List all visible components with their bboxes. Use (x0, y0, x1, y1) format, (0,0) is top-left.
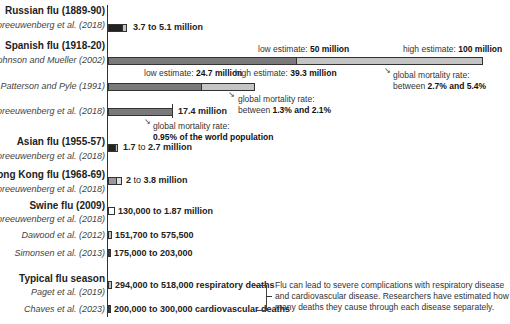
source-label: Paget et al. (2019) (31, 287, 105, 297)
bar-swine-simonsen (108, 249, 111, 257)
bar-low-segment (109, 178, 116, 184)
high-estimate-value: 100 million (458, 44, 502, 54)
bar-swine-dawood (108, 231, 112, 239)
mortality-note: global mortality rate: (238, 94, 315, 104)
group-label-russian-flu: Russian flu (1889-90) (5, 5, 105, 16)
source-label: Dawood et al. (2012) (21, 230, 105, 240)
source-label: Spreeuwenberg et al. (2018) (0, 151, 105, 161)
mortality-note: global mortality rate: (393, 70, 470, 80)
bar-low-segment (109, 109, 172, 115)
bar-high-segment (109, 232, 111, 238)
group-label-spanish-flu: Spanish flu (1918-20) (5, 40, 105, 51)
arrow-icon: ↘ (228, 90, 235, 99)
bar-typical-chaves (108, 305, 111, 313)
high-estimate-label: high estimate: (403, 44, 456, 54)
bar-high-segment (115, 145, 117, 151)
low-estimate-annotation: low estimate: 50 million (258, 44, 349, 54)
source-label: Chaves et al. (2023) (24, 304, 105, 314)
high-estimate-value: 39.3 million (290, 68, 336, 78)
bar-low-segment (109, 58, 296, 64)
mortality-note: global mortality rate: (153, 121, 230, 131)
bar-russian-spreeuwenberg (108, 24, 127, 32)
note-value: 2.7% and 5.4% (428, 81, 487, 91)
value-label: 3.7 to 5.1 million (133, 22, 203, 32)
arrow-icon: ↘ (384, 66, 391, 75)
bar-high-segment (122, 25, 126, 31)
value-low: 1.7 (123, 142, 136, 152)
group-label-swine-flu: Swine flu (2009) (29, 200, 105, 211)
mortality-note-range: between 2.7% and 5.4% (393, 81, 486, 91)
mortality-note-range: between 1.3% and 2.1% (238, 105, 331, 115)
value-low: 2 (126, 175, 131, 185)
source-label: Spreeuwenberg et al. (2018) (0, 184, 105, 194)
arrow-icon: ↘ (144, 117, 151, 126)
mortality-note-value: 0.95% of the world population (153, 132, 273, 142)
value-label: 17.4 million (178, 106, 227, 116)
source-label: Johnson and Mueller (2002) (0, 55, 105, 65)
high-estimate-annotation: high estimate: 100 million (403, 44, 502, 54)
y-axis-line (107, 5, 108, 317)
source-label: Patterson and Pyle (1991) (0, 81, 105, 91)
bar-spanish-spreeuwenberg (108, 108, 173, 116)
value-label: 294,000 to 518,000 respiratory deaths (115, 280, 275, 290)
bar-asian-spreeuwenberg (108, 144, 118, 152)
note-text: between (393, 81, 428, 91)
annotation-bracket (256, 285, 267, 311)
note-text: between (238, 105, 273, 115)
estimate-tick (172, 104, 173, 118)
value-label: 151,700 to 575,500 (115, 230, 194, 240)
value-label: 130,000 to 1.87 million (118, 206, 213, 216)
low-estimate-annotation: low estimate: 24.7 million (144, 68, 242, 78)
low-estimate-label: low estimate: (144, 68, 194, 78)
low-estimate-label: low estimate: (258, 44, 308, 54)
source-label: Spreeuwenberg et al. (2018) (0, 214, 105, 224)
bar-low-segment (109, 84, 201, 90)
bar-high-segment (116, 178, 121, 184)
group-label-asian-flu: Asian flu (1955-57) (17, 136, 105, 147)
group-label-hong-kong-flu: Hong Kong flu (1968-69) (0, 169, 105, 180)
value-to: to (134, 175, 142, 185)
bar-low-segment (109, 25, 122, 31)
source-label: Simonsen et al. (2013) (14, 248, 105, 258)
bar-spanish-johnson (108, 57, 483, 65)
value-high: 3.8 million (144, 175, 188, 185)
value-high: 2.7 million (148, 142, 192, 152)
bracket-connector (266, 296, 272, 297)
bar-high-segment (296, 58, 482, 64)
value-label: 1.7 to 2.7 million (123, 142, 192, 152)
bar-hong-kong-spreeuwenberg (108, 177, 122, 185)
bar-typical-paget (108, 281, 112, 289)
group-label-typical-flu-season: Typical flu season (19, 273, 105, 284)
high-estimate-label: high estimate: (235, 68, 288, 78)
bar-swine-spreeuwenberg (108, 207, 115, 215)
bar-high-segment (109, 282, 111, 288)
note-value: 1.3% and 2.1% (273, 105, 332, 115)
value-label: 2 to 3.8 million (126, 175, 188, 185)
low-estimate-value: 50 million (310, 44, 349, 54)
value-label: 175,000 to 203,000 (114, 248, 193, 258)
source-label: Spreeuwenberg et al. (2018) (0, 106, 105, 116)
annotation-text: Flu can lead to severe complications wit… (275, 280, 510, 313)
source-label: Spreeuwenberg et al. (2018) (0, 20, 105, 30)
value-to: to (138, 142, 146, 152)
high-estimate-annotation: high estimate: 39.3 million (235, 68, 337, 78)
